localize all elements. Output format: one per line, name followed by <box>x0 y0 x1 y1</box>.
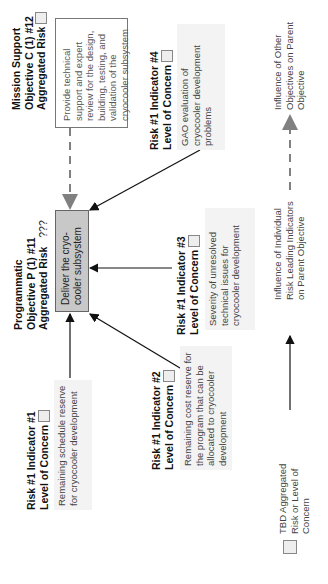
indicator-2-checkbox <box>163 370 175 382</box>
indicator-3-checkbox <box>188 235 200 247</box>
indicator-1-checkbox <box>38 410 50 422</box>
mission-objective-title: Mission Support Objective C (1) #12 Aggr… <box>10 12 48 110</box>
indicator-2-title: Risk #1 Indicator #2 Level of Concern <box>150 370 175 470</box>
indicator-3-title: Risk #1 Indicator #3 Level of Concern <box>175 235 200 335</box>
legend-solid-text: Influence of Individual Risk Leading Ind… <box>272 190 307 300</box>
legend-dashed-text: Influence of Other Objectives on Parent … <box>272 14 307 110</box>
legend-tbd-square <box>283 540 297 554</box>
indicator-4-arrow <box>90 150 200 210</box>
parent-risk-value: ??? <box>37 220 49 238</box>
parent-objective-title: Programmatic Objective P (1) #11 Aggrega… <box>12 220 50 330</box>
indicator-4-description: GAO evaluation of cryocooler development… <box>177 24 225 150</box>
indicator-3-description: Severity of unresolved technical issues … <box>205 208 255 330</box>
mission-risk-checkbox <box>35 12 47 24</box>
risk-diagram: Programmatic Objective P (1) #11 Aggrega… <box>0 0 328 584</box>
indicator-2-description: Remaining cost reserve for the program t… <box>180 346 232 470</box>
indicator-4-title: Risk #1 Indicator #4 Level of Concern <box>148 50 173 150</box>
indicator-4-checkbox <box>161 50 173 62</box>
legend-tbd-text: TBD Aggregated Risk or Level of Concern <box>277 444 312 534</box>
indicator-1-title: Risk #1 Indicator #1 Level of Concern <box>25 410 50 510</box>
indicator-1-description: Remaining schedule reserve for cryocoole… <box>54 380 92 510</box>
parent-objective-box: Deliver the cryo-cooler subsystem <box>55 210 89 312</box>
mission-objective-box: Provide technical support and expert rev… <box>55 18 128 128</box>
